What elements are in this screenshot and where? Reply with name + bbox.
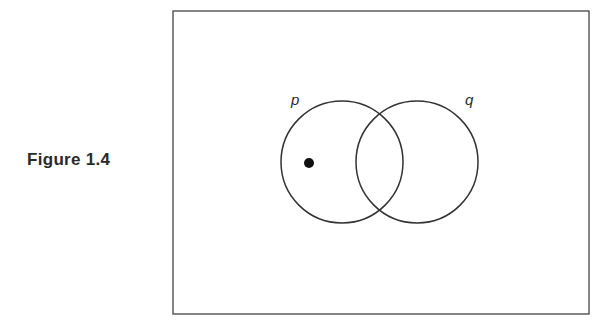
element-dot <box>304 158 314 168</box>
set-q-circle <box>356 101 478 223</box>
set-p-label: p <box>290 91 299 108</box>
universe-rectangle <box>173 11 589 314</box>
set-p-circle <box>281 101 403 223</box>
set-q-label: q <box>465 91 474 108</box>
venn-diagram: p q <box>0 0 612 329</box>
